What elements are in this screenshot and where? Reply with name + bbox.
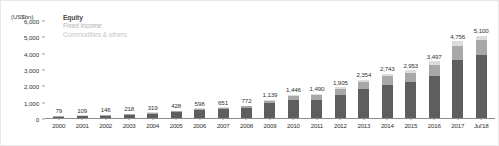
x-axis-tick-label: 2006	[188, 122, 211, 134]
stacked-bar: 1,490	[311, 94, 322, 118]
y-axis-tick-label: 0	[36, 116, 39, 123]
bar-slot: 2,953	[399, 21, 422, 118]
bar-total-label: 2,953	[403, 62, 418, 69]
stacked-bar: 2,354	[358, 80, 369, 118]
bar-total-label: 772	[242, 97, 252, 104]
bar-slot: 1,139	[258, 21, 281, 118]
stacked-bar: 428	[171, 111, 182, 118]
bar-total-label: 1,490	[310, 85, 325, 92]
y-axis-tick-label: 6,000	[24, 18, 39, 25]
bar-slot: 5,100	[469, 21, 492, 118]
x-axis-tick-label: 2013	[352, 122, 375, 134]
bar-segment-equity	[429, 76, 440, 118]
bar-segment-fixed-income	[382, 76, 393, 84]
x-axis-tick-label: 2017	[446, 122, 469, 134]
x-axis: 2000200120022003200420052006200720082009…	[45, 122, 495, 134]
y-axis-tick-label: 3,000	[24, 67, 39, 74]
stacked-bar: 1,446	[288, 95, 299, 118]
x-axis-tick-label: 2001	[70, 122, 93, 134]
bar-slot: 428	[164, 21, 187, 118]
y-axis-tick-label: 4,000	[24, 50, 39, 57]
bar-slot: 146	[94, 21, 117, 118]
stacked-bar-chart: (US$bn) 6,0005,0004,0003,0002,0001,0000 …	[0, 0, 499, 146]
bar-segment-equity	[241, 108, 252, 118]
bar-total-label: 651	[218, 99, 228, 106]
bar-total-label: 109	[77, 107, 87, 114]
bar-total-label: 146	[101, 106, 111, 113]
bar-slot: 2,354	[352, 21, 375, 118]
bar-total-label: 5,100	[474, 27, 489, 34]
bar-total-label: 598	[195, 100, 205, 107]
x-axis-tick-label: Jul'18	[469, 122, 492, 134]
bar-slot: 598	[188, 21, 211, 118]
x-axis-tick-label: 2003	[117, 122, 140, 134]
bar-slot: 1,446	[282, 21, 305, 118]
x-axis-tick-label: 2000	[47, 122, 70, 134]
bar-total-label: 3,497	[427, 53, 442, 60]
bar-segment-equity	[452, 60, 463, 118]
x-axis-tick-label: 2010	[282, 122, 305, 134]
bar-slot: 79	[47, 21, 70, 118]
bar-slot: 3,497	[423, 21, 446, 118]
y-axis: 6,0005,0004,0003,0002,0001,0000	[1, 21, 45, 119]
bar-total-label: 4,756	[450, 33, 465, 40]
bar-segment-fixed-income	[358, 82, 369, 89]
x-axis-tick-label: 2007	[211, 122, 234, 134]
stacked-bar: 5,100	[476, 36, 487, 118]
bar-total-label: 1,139	[263, 91, 278, 98]
bar-segment-fixed-income	[429, 65, 440, 76]
stacked-bar: 3,497	[429, 61, 440, 118]
bar-segment-fixed-income	[476, 40, 487, 56]
bar-segment-equity	[335, 95, 346, 118]
x-axis-tick-label: 2011	[305, 122, 328, 134]
bar-segment-equity	[288, 100, 299, 118]
stacked-bar: 1,905	[335, 87, 346, 118]
bar-segment-equity	[194, 110, 205, 118]
bar-total-label: 319	[148, 104, 158, 111]
bar-total-label: 2,743	[380, 65, 395, 72]
bar-segment-equity	[311, 100, 322, 118]
x-axis-tick-label: 2009	[258, 122, 281, 134]
bar-group: 791091462183194285986517721,1391,4461,49…	[45, 21, 495, 118]
bar-segment-equity	[405, 82, 416, 118]
x-axis-tick-label: 2004	[141, 122, 164, 134]
bar-segment-equity	[218, 109, 229, 118]
x-axis-tick-label: 2015	[399, 122, 422, 134]
bar-slot: 218	[117, 21, 140, 118]
bar-total-label: 79	[55, 107, 62, 114]
x-axis-tick-label: 2014	[376, 122, 399, 134]
stacked-bar: 2,953	[405, 70, 416, 118]
bar-total-label: 2,354	[356, 71, 371, 78]
bar-segment-equity	[476, 55, 487, 118]
stacked-bar: 651	[218, 107, 229, 118]
bar-slot: 1,490	[305, 21, 328, 118]
bar-slot: 109	[70, 21, 93, 118]
bar-slot: 319	[141, 21, 164, 118]
x-axis-tick-label: 2012	[329, 122, 352, 134]
stacked-bar: 772	[241, 106, 252, 118]
bar-total-label: 1,446	[286, 86, 301, 93]
plot-area: 791091462183194285986517721,1391,4461,49…	[45, 21, 495, 119]
bar-total-label: 428	[171, 102, 181, 109]
x-axis-tick-label: 2005	[164, 122, 187, 134]
bar-slot: 1,905	[329, 21, 352, 118]
bar-segment-fixed-income	[405, 73, 416, 82]
bar-slot: 772	[235, 21, 258, 118]
stacked-bar: 4,756	[452, 41, 463, 118]
bar-segment-fixed-income	[452, 46, 463, 60]
bar-segment-equity	[382, 85, 393, 118]
stacked-bar: 598	[194, 108, 205, 118]
x-axis-tick-label: 2002	[94, 122, 117, 134]
y-axis-tick-label: 2,000	[24, 83, 39, 90]
stacked-bar: 2,743	[382, 74, 393, 118]
stacked-bar: 1,139	[264, 100, 275, 118]
y-axis-tick-label: 5,000	[24, 34, 39, 41]
bar-slot: 4,756	[446, 21, 469, 118]
x-axis-tick-label: 2008	[235, 122, 258, 134]
bar-total-label: 218	[124, 105, 134, 112]
x-axis-tick-label: 2016	[423, 122, 446, 134]
bar-segment-equity	[264, 103, 275, 118]
bar-segment-equity	[358, 89, 369, 118]
bar-total-label: 1,905	[333, 79, 348, 86]
y-axis-tick-label: 1,000	[24, 99, 39, 106]
